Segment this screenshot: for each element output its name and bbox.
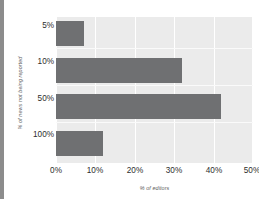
bar-100-percent[interactable]	[56, 131, 103, 156]
y-tick-label: 50%	[18, 95, 54, 103]
plot-area	[56, 17, 253, 163]
gridline	[214, 17, 215, 163]
row-separator	[56, 48, 253, 49]
x-tick-label: 20%	[115, 167, 155, 175]
x-axis-tick-labels: 0% 10% 20% 30% 40% 50%	[56, 167, 253, 179]
x-tick-label: 10%	[75, 167, 115, 175]
x-tick-label: 40%	[194, 167, 234, 175]
x-tick-label: 0%	[36, 167, 76, 175]
bar-row	[56, 21, 84, 46]
x-tick-label: 30%	[154, 167, 194, 175]
y-tick-label: 100%	[18, 131, 54, 139]
y-tick-label: 5%	[18, 22, 54, 30]
x-tick-label: 50%	[232, 167, 259, 175]
bar-row	[56, 58, 182, 83]
row-separator	[56, 85, 253, 86]
bar-row	[56, 131, 103, 156]
gridline	[252, 17, 253, 163]
gridline	[174, 17, 175, 163]
x-axis-title: % of editors	[56, 185, 253, 191]
bar-50-percent[interactable]	[56, 94, 221, 119]
row-separator	[56, 122, 253, 123]
bar-5-percent[interactable]	[56, 21, 84, 46]
bar-row	[56, 94, 221, 119]
horizontal-bar-chart: % of news not being reported 5% 10% 50% …	[0, 0, 259, 199]
bar-10-percent[interactable]	[56, 58, 182, 83]
y-axis-tick-labels: 5% 10% 50% 100%	[16, 17, 54, 163]
y-tick-label: 10%	[18, 58, 54, 66]
gridline	[135, 17, 136, 163]
